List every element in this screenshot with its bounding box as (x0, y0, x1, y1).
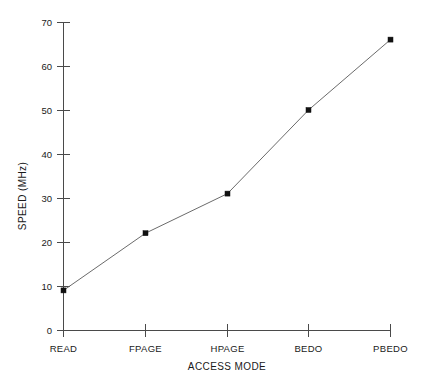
x-tick-labels: READ FPAGE HPAGE BEDO PBEDO (50, 343, 408, 354)
x-category-label: BEDO (294, 343, 322, 354)
line-chart: 70 60 50 40 30 20 10 0 READ FPAGE HPAGE … (0, 0, 424, 383)
y-axis-title: SPEED (MHz) (17, 162, 28, 230)
y-tick-label: 10 (41, 281, 52, 292)
data-point-markers (61, 37, 393, 293)
data-point-marker (306, 108, 311, 113)
data-point-marker (143, 231, 148, 236)
y-tick-label: 20 (41, 237, 52, 248)
y-tick-label: 40 (41, 149, 52, 160)
y-tick-label: 60 (41, 61, 52, 72)
data-point-marker (225, 191, 230, 196)
y-tick-label: 70 (41, 17, 52, 28)
y-tick-label: 0 (47, 325, 52, 336)
data-point-marker (61, 288, 66, 293)
speed-series-line (64, 40, 391, 291)
chart-container: 70 60 50 40 30 20 10 0 READ FPAGE HPAGE … (0, 0, 424, 383)
data-point-marker (388, 37, 393, 42)
y-tick-labels: 70 60 50 40 30 20 10 0 (41, 17, 52, 336)
y-tick-label: 50 (41, 105, 52, 116)
y-tick-label: 30 (41, 193, 52, 204)
x-axis-title: ACCESS MODE (188, 361, 266, 372)
x-category-label: READ (50, 343, 78, 354)
x-category-label: PBEDO (373, 343, 408, 354)
x-category-label: HPAGE (210, 343, 244, 354)
x-category-label: FPAGE (129, 343, 162, 354)
